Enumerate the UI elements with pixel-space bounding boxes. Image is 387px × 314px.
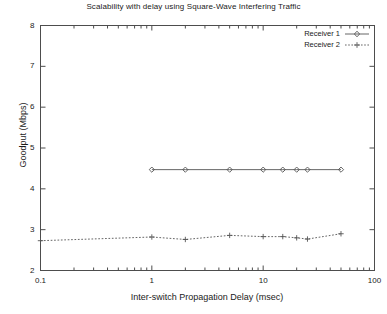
y-tick-label: 7 xyxy=(9,61,35,70)
data-series-1 xyxy=(149,167,343,172)
y-tick-label: 4 xyxy=(9,184,35,193)
axis-ticks xyxy=(41,26,375,271)
legend-sample-dashed-plus xyxy=(344,40,370,50)
y-tick-label: 2 xyxy=(9,266,35,275)
legend-entry-receiver-1: Receiver 1 xyxy=(276,28,370,39)
legend-label: Receiver 2 xyxy=(304,40,340,49)
y-tick-label: 3 xyxy=(9,225,35,234)
data-series-group xyxy=(38,167,344,243)
legend-label: Receiver 1 xyxy=(304,29,340,38)
plot-frame xyxy=(41,26,375,271)
x-tick-label: 10 xyxy=(248,276,278,285)
x-tick-label: 1 xyxy=(137,276,167,285)
legend-sample-solid-diamond xyxy=(344,29,370,39)
x-tick-label: 100 xyxy=(360,276,387,285)
y-tick-label: 6 xyxy=(9,102,35,111)
x-tick-label: 0.1 xyxy=(26,276,56,285)
data-series-2 xyxy=(38,231,344,243)
chart-legend: Receiver 1 Receiver 2 xyxy=(276,28,370,50)
y-tick-label: 8 xyxy=(9,21,35,30)
y-tick-label: 5 xyxy=(9,143,35,152)
chart-figure: Scalability with delay using Square-Wave… xyxy=(0,0,387,314)
legend-entry-receiver-2: Receiver 2 xyxy=(276,39,370,50)
